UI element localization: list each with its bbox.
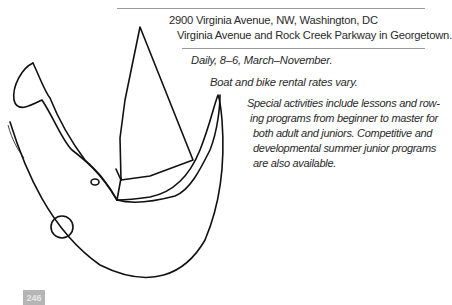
sail-shape [120, 27, 193, 180]
hull-inner [14, 63, 220, 202]
mast-line [117, 178, 121, 200]
hull-outer [10, 95, 223, 277]
porthole-small [91, 179, 99, 185]
porthole-large [51, 216, 73, 238]
page-number-badge: 246 [23, 290, 45, 305]
